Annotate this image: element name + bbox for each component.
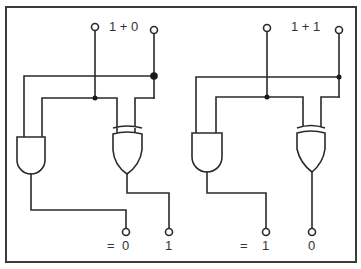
wire-a-to-xor <box>95 98 117 132</box>
equals-sign: = <box>107 238 115 253</box>
junction-dot <box>93 96 98 101</box>
and-gate <box>192 133 222 172</box>
carry-output-terminal <box>263 229 270 236</box>
carry-output-value: 0 <box>122 238 129 253</box>
wire-a-to-xor <box>267 97 303 127</box>
and-gate <box>17 137 45 174</box>
input-terminal-a <box>92 24 99 31</box>
xor-gate <box>113 132 142 174</box>
input-terminal-b <box>151 27 158 34</box>
sum-expression-label: 1 + 0 <box>109 19 138 34</box>
carry-output-terminal <box>123 229 130 236</box>
sum-output-value: 1 <box>165 238 172 253</box>
sum-expression-label: 1 + 1 <box>291 19 320 34</box>
input-terminal-a <box>264 25 271 32</box>
carry-output-value: 1 <box>262 238 269 253</box>
junction-dot <box>150 72 158 80</box>
circuit-left: 1 + 0 = 0 1 <box>17 19 173 253</box>
circuit-right: 1 + 1 = 1 0 <box>192 19 343 253</box>
sum-output-value: 0 <box>308 238 315 253</box>
equals-sign: = <box>240 238 248 253</box>
junction-dot <box>337 75 342 80</box>
xor-gate-arc <box>113 126 142 128</box>
carry-output-wire <box>207 172 266 228</box>
half-adder-diagram: 1 + 0 = 0 1 1 + 1 <box>0 0 361 269</box>
junction-dot <box>265 95 270 100</box>
sum-output-wire <box>127 174 169 228</box>
sum-output-terminal <box>309 229 316 236</box>
wire-a-to-and <box>216 97 267 133</box>
xor-gate <box>297 131 325 172</box>
wire-b-to-xor <box>321 97 339 127</box>
input-terminal-b <box>336 27 343 34</box>
wire-a-to-and <box>42 98 95 137</box>
carry-output-wire <box>31 174 126 228</box>
sum-output-terminal <box>166 229 173 236</box>
